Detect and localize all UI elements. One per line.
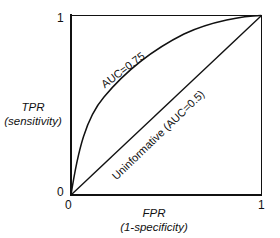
y-axis-tick-min: 0	[57, 186, 64, 198]
x-axis-tick-max: 1	[258, 199, 265, 211]
x-axis-title-line2: (1-specificity)	[78, 220, 230, 234]
x-axis-tick-min: 0	[65, 199, 72, 211]
roc-figure: 1 0 0 1 TPR (sensitivity) FPR (1-specifi…	[0, 0, 280, 238]
y-axis-title-line1: TPR	[0, 100, 66, 114]
y-axis-title: TPR (sensitivity)	[0, 100, 66, 129]
y-axis-title-line2: (sensitivity)	[0, 114, 66, 128]
y-axis-tick-max: 1	[57, 12, 64, 24]
x-axis-title: FPR (1-specificity)	[78, 206, 230, 235]
x-axis-title-line1: FPR	[78, 206, 230, 220]
